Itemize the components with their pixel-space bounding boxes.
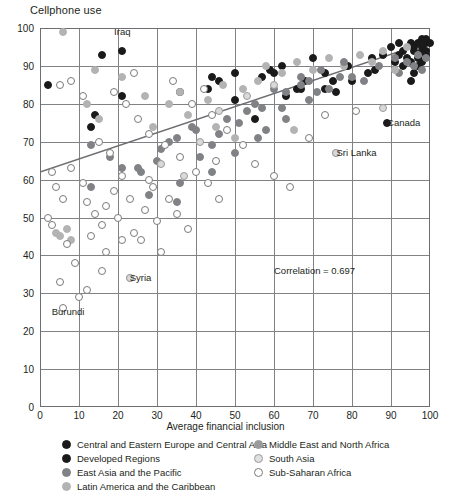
x-tick-label: 100 [412, 410, 448, 421]
data-point [95, 138, 103, 146]
data-point [223, 126, 231, 134]
data-point [418, 66, 426, 74]
data-point [67, 164, 75, 172]
data-point [176, 179, 184, 187]
data-point [56, 232, 64, 240]
x-tick-label: 70 [295, 410, 331, 421]
data-point [173, 210, 181, 218]
data-point [410, 62, 418, 70]
y-tick-label: 90 [0, 60, 34, 71]
data-point [391, 66, 399, 74]
data-point [161, 141, 169, 149]
data-point [59, 195, 67, 203]
data-point [63, 225, 71, 233]
legend-marker-icon [62, 440, 71, 449]
data-point [83, 100, 91, 108]
data-point [71, 259, 79, 267]
y-tick-label: 10 [0, 364, 34, 375]
data-point [59, 28, 67, 36]
data-point [305, 134, 313, 142]
data-point [98, 267, 106, 275]
data-point [208, 168, 216, 176]
data-point [208, 111, 216, 119]
data-point [153, 217, 161, 225]
data-point [157, 248, 165, 256]
legend-marker-icon [254, 440, 263, 449]
data-point [145, 176, 153, 184]
data-point [126, 195, 134, 203]
data-point [379, 104, 387, 112]
data-point [231, 134, 239, 142]
data-point [48, 221, 56, 229]
data-point [387, 43, 395, 51]
x-tick-label: 0 [22, 410, 58, 421]
data-point [102, 248, 110, 256]
gridline-horizontal [41, 180, 429, 181]
y-tick-label: 20 [0, 326, 34, 337]
legend-marker-icon [254, 468, 263, 477]
point-annotation: Iraq [114, 26, 130, 37]
data-point [223, 115, 231, 123]
data-point [95, 115, 103, 123]
data-point [235, 119, 243, 127]
data-point [106, 149, 114, 157]
data-point [180, 172, 188, 180]
data-point [192, 168, 200, 176]
data-point [134, 164, 142, 172]
data-point [278, 69, 286, 77]
data-point [91, 66, 99, 74]
data-point [336, 73, 344, 81]
x-tick-label: 30 [139, 410, 175, 421]
legend-label: Latin America and the Caribbean [77, 481, 215, 492]
x-tick-label: 90 [373, 410, 409, 421]
data-point [200, 85, 208, 93]
data-point [149, 183, 157, 191]
data-point [407, 77, 415, 85]
data-point [313, 88, 321, 96]
x-tick-label: 50 [217, 410, 253, 421]
data-point [356, 51, 364, 59]
data-point [309, 54, 317, 62]
data-point [79, 179, 87, 187]
data-point [251, 115, 259, 123]
data-point [67, 77, 75, 85]
data-point [48, 168, 56, 176]
gridline-horizontal [41, 218, 429, 219]
legend-item: South Asia [254, 451, 389, 465]
data-point [239, 141, 247, 149]
y-tick-label: 40 [0, 250, 34, 261]
legend-item: Latin America and the Caribbean [62, 479, 267, 493]
data-point [196, 138, 204, 146]
legend-marker-icon [62, 454, 71, 463]
y-tick-label: 100 [0, 23, 34, 34]
data-point [243, 107, 251, 115]
legend-label: South Asia [269, 453, 314, 464]
data-point [403, 58, 411, 66]
data-point [56, 278, 64, 286]
legend-item: East Asia and the Pacific [62, 465, 267, 479]
gridline-horizontal [41, 293, 429, 294]
data-point [270, 69, 278, 77]
data-point [321, 111, 329, 119]
legend-label: Middle East and North Africa [269, 439, 389, 450]
data-point [56, 81, 64, 89]
legend-label: Central and Eastern Europe and Central A… [77, 439, 267, 450]
data-point [141, 206, 149, 214]
data-point [270, 81, 278, 89]
legend-marker-icon [62, 468, 71, 477]
data-point [176, 88, 184, 96]
data-point [391, 54, 399, 62]
data-point [98, 221, 106, 229]
data-point [360, 77, 368, 85]
x-tick-label: 10 [61, 410, 97, 421]
x-tick-label: 20 [100, 410, 136, 421]
data-point [87, 141, 95, 149]
data-point [176, 153, 184, 161]
legend-marker-icon [62, 482, 71, 491]
legend-label: East Asia and the Pacific [77, 467, 182, 478]
data-point [98, 51, 106, 59]
legend-marker-icon [254, 454, 263, 463]
data-point [173, 198, 181, 206]
data-point [192, 126, 200, 134]
data-point [215, 195, 223, 203]
